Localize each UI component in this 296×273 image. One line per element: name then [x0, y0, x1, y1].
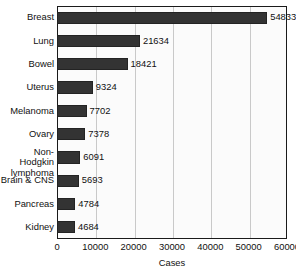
bar-row: 9324 [57, 76, 287, 99]
bar-chart: BreastLungBowelUterusMelanomaOvaryNon-Ho… [0, 0, 296, 273]
x-tick-label: 0 [54, 241, 59, 253]
bar-row: 6091 [57, 146, 287, 169]
category-label: Pancreas [0, 199, 54, 210]
bar-value-label: 7702 [90, 104, 111, 118]
bar [57, 81, 93, 93]
bar [57, 35, 140, 47]
bar [57, 151, 80, 163]
x-tick-label: 10000 [82, 241, 108, 253]
x-tick-label: 20000 [121, 241, 147, 253]
bar [57, 198, 75, 210]
x-tick-label: 30000 [159, 241, 185, 253]
category-label: Lung [0, 36, 54, 47]
x-tick-label: 60000 [274, 241, 296, 253]
category-label: Brain & CNS [0, 175, 54, 186]
x-axis-tick-labels: 0100002000030000400005000060000 [0, 241, 296, 255]
category-axis-labels: BreastLungBowelUterusMelanomaOvaryNon-Ho… [0, 6, 54, 239]
x-tick-label: 40000 [197, 241, 223, 253]
bar-row: 7702 [57, 99, 287, 122]
bar-row: 54833 [57, 6, 287, 29]
x-axis-title: Cases [57, 257, 287, 269]
bar [57, 175, 79, 187]
bar [57, 105, 87, 117]
bar-value-label: 21634 [143, 34, 169, 48]
bar-row: 18421 [57, 53, 287, 76]
bar [57, 128, 85, 140]
bar-row: 4784 [57, 192, 287, 215]
category-label: Ovary [0, 129, 54, 140]
bar-rows: 5483321634184219324770273786091569347844… [57, 6, 287, 239]
bar-row: 5693 [57, 169, 287, 192]
bar-value-label: 4784 [78, 197, 99, 211]
bar-row: 7378 [57, 123, 287, 146]
category-label: Kidney [0, 222, 54, 233]
bar [57, 12, 267, 24]
category-label: Uterus [0, 82, 54, 93]
bar-value-label: 54833 [270, 10, 296, 24]
bar [57, 58, 128, 70]
category-label: Bowel [0, 59, 54, 70]
bar-value-label: 18421 [131, 57, 157, 71]
x-tick-label: 50000 [236, 241, 262, 253]
bar [57, 221, 75, 233]
bar-value-label: 9324 [96, 80, 117, 94]
category-label: Breast [0, 12, 54, 23]
bar-value-label: 4684 [78, 220, 99, 234]
bar-row: 21634 [57, 29, 287, 52]
bar-value-label: 6091 [83, 150, 104, 164]
bar-value-label: 7378 [88, 127, 109, 141]
category-label: Melanoma [0, 106, 54, 117]
bar-row: 4684 [57, 216, 287, 239]
bar-value-label: 5693 [82, 173, 103, 187]
